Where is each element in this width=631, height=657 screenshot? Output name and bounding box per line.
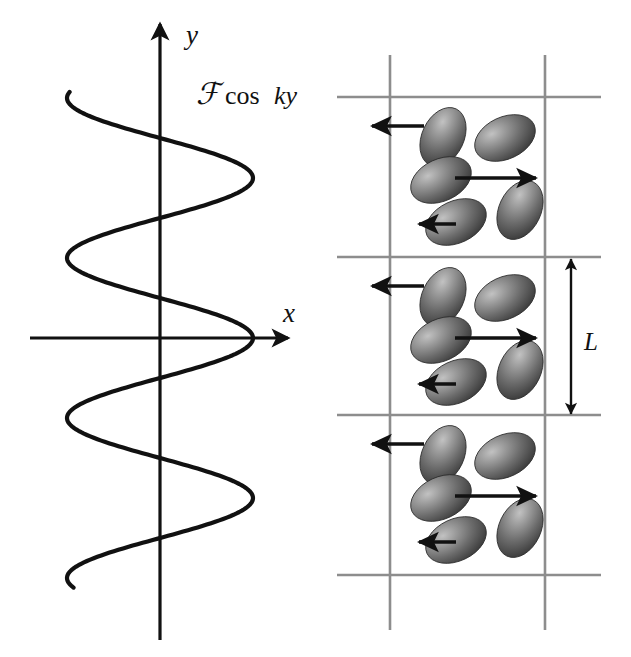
left-panel: y x ℱ cos ky [30, 20, 298, 640]
molecule-field [372, 100, 552, 573]
figure-canvas: y x ℱ cos ky L [0, 0, 631, 657]
dimension-label-L: L [583, 328, 598, 355]
curve-label-group: ℱ cos ky [196, 77, 298, 110]
cell-middle [372, 260, 552, 415]
molecule-ellipse-1 [467, 265, 543, 330]
molecule-ellipse-1 [467, 423, 543, 488]
script-f-symbol: ℱ [196, 77, 225, 110]
molecule-ellipse-3 [488, 491, 552, 565]
right-panel: L [337, 55, 601, 630]
cell-bottom [372, 418, 552, 573]
y-axis-label: y [183, 20, 198, 50]
figure-container: y x ℱ cos ky L [0, 0, 631, 657]
molecule-ellipse-3 [488, 333, 552, 407]
x-axis-label: x [282, 298, 295, 328]
molecule-ellipse-3 [488, 173, 552, 247]
ky-argument: ky [274, 81, 298, 110]
cos-text: cos [225, 81, 260, 110]
cell-top [372, 100, 552, 255]
layer-spacing-dimension: L [571, 259, 598, 414]
molecule-ellipse-1 [467, 105, 543, 170]
